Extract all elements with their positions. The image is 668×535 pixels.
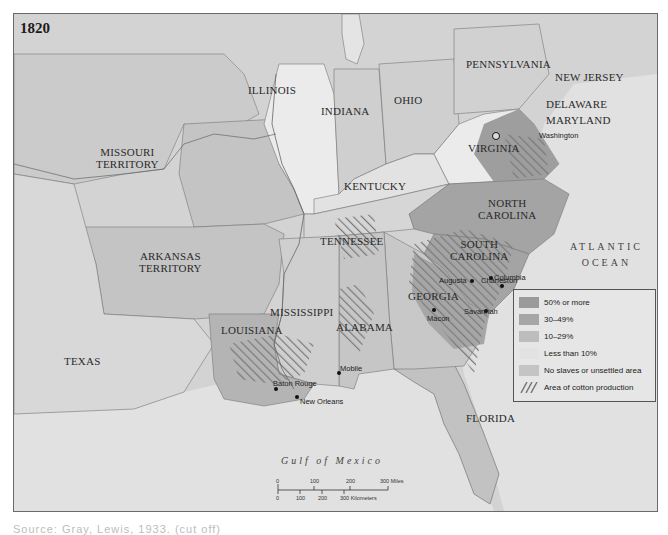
macon-dot-icon — [432, 308, 436, 312]
legend-item-no-slaves: No slaves or unsettled area — [519, 362, 650, 379]
scale-ruler-icon — [276, 474, 396, 504]
city-baton-rouge: Baton Rouge — [273, 379, 317, 388]
label-kentucky: KENTUCKY — [344, 180, 406, 192]
label-indiana: INDIANA — [321, 105, 369, 117]
map-legend: 50% or more 30–49% 10–29% Less than 10% … — [513, 289, 656, 402]
label-ohio: OHIO — [394, 94, 422, 106]
new-orleans-dot-icon — [295, 395, 299, 399]
augusta-dot-icon — [470, 279, 474, 283]
label-alabama: ALABAMA — [336, 321, 393, 333]
legend-item-10-29: 10–29% — [519, 328, 650, 345]
map-caption: Source: Gray, Lewis, 1933. (cut off) — [13, 523, 221, 535]
washington-marker-icon — [492, 132, 500, 140]
label-virginia: VIRGINIA — [468, 142, 520, 154]
map-frame: 1820 MISSOURITERRITORY ILLINOIS INDIANA … — [13, 13, 658, 512]
label-atlantic-ocean: ATLANTICOCEAN — [570, 239, 643, 271]
scale-bar: 0 100 200 300 Miles 0 100 200 300 Kilome… — [276, 474, 396, 504]
label-florida: FLORIDA — [466, 412, 515, 424]
city-new-orleans: New Orleans — [300, 397, 343, 406]
label-missouri-territory: MISSOURITERRITORY — [96, 146, 159, 170]
label-tennessee: TENNESSEE — [320, 235, 384, 247]
swatch-50-plus-icon — [519, 297, 539, 308]
legend-item-cotton: Area of cotton production — [519, 379, 650, 396]
label-louisiana: LOUISIANA — [221, 324, 283, 336]
map-canvas — [14, 14, 657, 511]
label-delaware: DELAWARE — [546, 98, 607, 110]
map-year: 1820 — [20, 20, 50, 37]
city-mobile: Mobile — [340, 364, 362, 373]
label-gulf-of-mexico: Gulf of Mexico — [281, 455, 383, 466]
city-augusta: Augusta — [439, 276, 467, 285]
label-north-carolina: NORTHCAROLINA — [478, 197, 536, 221]
label-georgia: GEORGIA — [408, 290, 459, 302]
city-charleston: Charleston — [481, 276, 517, 285]
legend-item-30-49: 30–49% — [519, 311, 650, 328]
label-new-jersey: NEW JERSEY — [555, 71, 624, 83]
label-illinois: ILLINOIS — [248, 84, 296, 96]
label-mississippi: MISSISSIPPI — [270, 306, 333, 318]
city-macon: Macon — [427, 314, 450, 323]
legend-item-less-10: Less than 10% — [519, 345, 650, 362]
label-texas: TEXAS — [64, 355, 100, 367]
label-pennsylvania: PENNSYLVANIA — [466, 58, 551, 70]
label-arkansas-territory: ARKANSASTERRITORY — [139, 250, 202, 274]
label-maryland: MARYLAND — [546, 114, 611, 126]
city-savannah: Savannah — [464, 307, 498, 316]
swatch-no-slaves-icon — [519, 365, 539, 376]
label-south-carolina: SOUTHCAROLINA — [450, 238, 508, 262]
swatch-10-29-icon — [519, 331, 539, 342]
swatch-less-10-icon — [519, 348, 539, 359]
legend-item-50-plus: 50% or more — [519, 294, 650, 311]
city-washington: Washington — [539, 131, 578, 140]
hatch-swatch-icon — [519, 382, 539, 393]
swatch-30-49-icon — [519, 314, 539, 325]
